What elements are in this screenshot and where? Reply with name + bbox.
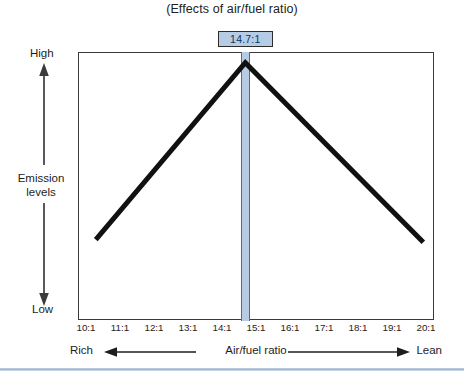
- x-axis-tick-18-1: 18:1: [348, 322, 367, 333]
- x-axis-tick-14-1: 14:1: [212, 322, 231, 333]
- x-axis-caption-row: Rich Air/fuel ratio Lean: [70, 344, 442, 360]
- stoichiometric-callout-label: 14.7:1: [218, 31, 273, 47]
- x-axis-title: Air/fuel ratio: [225, 344, 286, 356]
- x-axis-tick-16-1: 16:1: [280, 322, 299, 333]
- y-axis-high-label: High: [30, 47, 54, 59]
- x-axis-tick-12-1: 12:1: [144, 322, 163, 333]
- x-axis-rich-label: Rich: [70, 344, 93, 356]
- x-axis-tick-11-1: 11:1: [111, 322, 129, 333]
- stoichiometric-band: [241, 52, 250, 321]
- y-axis-title: Emission levels: [10, 172, 72, 199]
- bottom-divider: [0, 368, 464, 371]
- x-axis-tick-17-1: 17:1: [314, 322, 333, 333]
- x-axis-tick-13-1: 13:1: [178, 322, 197, 333]
- x-axis-tick-20-1: 20:1: [416, 322, 435, 333]
- y-axis-title-line1: Emission: [18, 172, 65, 184]
- x-axis-tick-10-1: 10:1: [76, 322, 95, 333]
- chart-title: (Effects of air/fuel ratio): [0, 2, 464, 16]
- x-axis-tick-15-1: 15:1: [246, 322, 265, 333]
- y-axis-up-arrow-icon: [39, 63, 49, 165]
- y-axis-down-arrow-icon: [39, 203, 49, 306]
- plot-area-frame: [78, 52, 434, 320]
- y-axis-low-label: Low: [32, 303, 53, 315]
- y-axis-title-line2: levels: [26, 186, 55, 198]
- emission-vs-air-fuel-ratio-chart: (Effects of air/fuel ratio) 14.7:1 High …: [0, 0, 464, 382]
- x-axis-tick-labels: 10:111:112:113:114:115:116:117:118:119:1…: [78, 322, 434, 336]
- x-axis-tick-19-1: 19:1: [382, 322, 401, 333]
- x-axis-lean-label: Lean: [416, 344, 442, 356]
